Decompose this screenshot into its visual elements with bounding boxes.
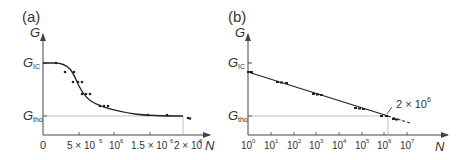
x-tick-1.5e6: 1.5 × 10 6 bbox=[131, 138, 174, 151]
y-axis-label-b: G bbox=[235, 25, 245, 40]
svg-text:7: 7 bbox=[411, 138, 415, 144]
svg-text:10: 10 bbox=[377, 140, 389, 151]
svg-text:1: 1 bbox=[275, 138, 279, 144]
x-tick-2e6: 2 × 10 6 bbox=[174, 138, 203, 151]
svg-text:10: 10 bbox=[355, 140, 367, 151]
svg-text:10: 10 bbox=[264, 140, 276, 151]
svg-text:1.5 × 10: 1.5 × 10 bbox=[131, 140, 168, 151]
svg-text:10: 10 bbox=[109, 140, 121, 151]
svg-text:tho: tho bbox=[238, 116, 248, 123]
svg-text:G: G bbox=[228, 55, 238, 70]
y-axis-label: G bbox=[30, 25, 40, 40]
svg-text:G: G bbox=[23, 55, 33, 70]
svg-text:IC: IC bbox=[238, 63, 245, 70]
svg-text:2 × 10: 2 × 10 bbox=[396, 98, 427, 110]
svg-text:10: 10 bbox=[400, 140, 412, 151]
svg-text:2: 2 bbox=[298, 138, 302, 144]
panel-b-label: (b) bbox=[228, 8, 246, 25]
svg-text:6: 6 bbox=[120, 138, 124, 144]
svg-text:0: 0 bbox=[252, 138, 256, 144]
svg-text:5: 5 bbox=[366, 138, 370, 144]
panel-a-label: (a) bbox=[22, 8, 40, 25]
svg-text:6: 6 bbox=[199, 138, 203, 144]
svg-text:6: 6 bbox=[388, 138, 392, 144]
annotation-2e6: 2 × 10 6 bbox=[387, 96, 431, 114]
svg-text:10: 10 bbox=[332, 140, 344, 151]
svg-text:10: 10 bbox=[309, 140, 321, 151]
fit-line-extrapolation bbox=[388, 116, 410, 123]
svg-text:3: 3 bbox=[320, 138, 324, 144]
fit-curve bbox=[43, 63, 183, 116]
svg-text:10: 10 bbox=[287, 140, 299, 151]
x-tick-0: 0 bbox=[40, 139, 46, 151]
svg-text:5: 5 bbox=[99, 138, 103, 144]
x-tick-1e6: 10 6 bbox=[109, 138, 124, 151]
svg-text:4: 4 bbox=[343, 138, 347, 144]
svg-text:IC: IC bbox=[33, 63, 40, 70]
svg-text:6: 6 bbox=[427, 96, 431, 103]
panel-a: (a) G N G IC G tho 0 5 × 10 5 bbox=[22, 8, 215, 153]
x-axis-label-b: N bbox=[435, 139, 445, 154]
panel-b: (b) G N G IC G tho bbox=[228, 8, 448, 154]
svg-text:5 × 10: 5 × 10 bbox=[67, 140, 96, 151]
x-ticks-b: 100 101 102 103 104 105 106 107 bbox=[241, 138, 415, 151]
svg-text:tho: tho bbox=[33, 116, 43, 123]
data-points-a bbox=[55, 62, 192, 120]
x-tick-5e5: 5 × 10 5 bbox=[67, 138, 103, 151]
svg-text:10: 10 bbox=[241, 140, 253, 151]
figure: (a) G N G IC G tho 0 5 × 10 5 bbox=[0, 0, 469, 160]
svg-text:G: G bbox=[228, 108, 238, 123]
svg-text:G: G bbox=[23, 108, 33, 123]
x-axis-label: N bbox=[205, 138, 215, 153]
